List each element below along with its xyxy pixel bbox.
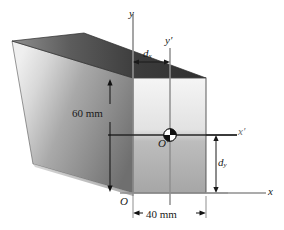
centroid-label-mark: ′ <box>166 137 168 149</box>
centroid-label-base: O <box>158 137 166 149</box>
axis-label-y-prime: y′ <box>165 35 172 46</box>
axis-label-y-prime-mark: ′ <box>170 34 172 46</box>
origin-label-O: O <box>120 196 128 207</box>
axis-label-y: y <box>129 8 134 19</box>
axis-label-x: x <box>268 186 273 197</box>
offset-label-dy: dy <box>218 157 227 169</box>
offset-label-dy-sub: y <box>224 161 227 169</box>
beam-cross-section-figure: — — — — — — — — <box>0 0 284 230</box>
dimension-label-height: 60 mm <box>72 108 103 119</box>
offset-label-dx: dx <box>143 48 152 60</box>
centroid-label-O-prime: O′ <box>158 138 168 149</box>
axis-label-x-prime: x′ <box>238 126 245 137</box>
offset-label-dx-sub: x <box>149 52 152 60</box>
beam-diagram-svg <box>0 0 284 230</box>
axis-label-x-prime-mark: ′ <box>243 125 245 137</box>
dimension-label-width: 40 mm <box>146 209 177 220</box>
